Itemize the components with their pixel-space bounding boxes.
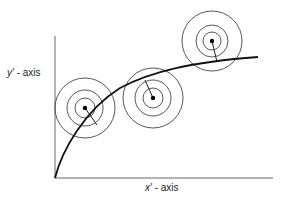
axes <box>55 36 273 178</box>
y-axis-label: y′ - axis <box>7 67 41 78</box>
center-dot <box>151 96 155 100</box>
concentric-targets <box>55 11 242 138</box>
diagram-canvas <box>0 0 287 203</box>
residual-line <box>212 41 217 62</box>
center-dot <box>210 39 214 43</box>
target-centers <box>83 39 214 110</box>
center-dot <box>83 106 87 110</box>
fitted-curve <box>55 57 258 178</box>
residual-line <box>145 80 153 98</box>
x-axis-label: x′ - axis <box>145 182 179 193</box>
